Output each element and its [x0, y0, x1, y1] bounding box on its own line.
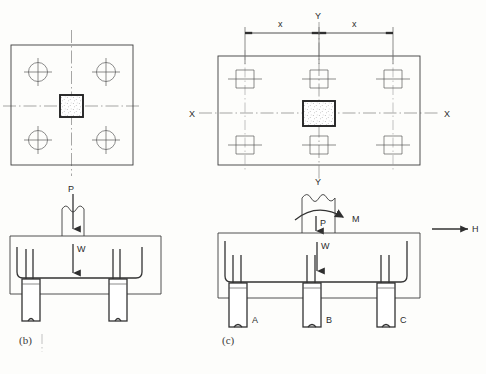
plan-c-axis-label-x-right: X — [444, 109, 450, 119]
caption-b: (b) — [19, 334, 32, 347]
pile-shaft — [109, 279, 127, 321]
elev-c-pile-C: C — [377, 255, 407, 327]
elev-c-pile-label-C: C — [400, 315, 407, 325]
figure-page: P W — [0, 0, 486, 374]
pile-shaft — [377, 283, 395, 327]
pile-shaft — [303, 283, 321, 327]
elev-c-moment-M-label: M — [352, 214, 360, 224]
elev-c-cap-reinforcement-u-bar — [225, 241, 407, 282]
plan-b-pile-top-right — [92, 58, 120, 86]
elev-c-pile-label-A: A — [252, 315, 258, 325]
elev-c-load-P-label: P — [320, 218, 326, 228]
elev-b-pile-left — [22, 249, 40, 321]
panel-c-plan: x x Y Y X X — [189, 11, 450, 187]
dim-label-x-right: x — [352, 19, 357, 29]
panel-b-elevation: P W — [10, 184, 161, 321]
dim-label-x-left: x — [278, 19, 283, 29]
plan-c-column-fill — [303, 101, 335, 126]
panel-c-elevation: M P H W A — [218, 195, 479, 328]
plan-b-pile-bottom-left — [24, 126, 52, 154]
plan-c-axis-label-y-top: Y — [315, 11, 321, 21]
engineering-figure: P W — [0, 0, 486, 374]
plan-c-axis-label-x-left: X — [189, 109, 195, 119]
caption-c: (c) — [222, 334, 235, 347]
elev-c-load-H-label: H — [472, 224, 479, 234]
plan-b-pile-top-left — [24, 58, 52, 86]
pile-shaft — [22, 279, 40, 321]
panel-b-plan — [3, 30, 142, 176]
elev-c-load-W-label: W — [321, 241, 330, 251]
plan-c-axis-label-y-bottom: Y — [315, 177, 321, 187]
plan-b-pile-bottom-right — [92, 126, 120, 154]
plan-b-column-fill — [60, 95, 83, 117]
elev-b-load-W-label: W — [77, 244, 86, 254]
elev-b-pile-right — [109, 249, 127, 321]
elev-b-load-P-label: P — [68, 184, 74, 194]
pile-shaft — [229, 283, 247, 327]
elev-c-column-break-symbol — [302, 195, 335, 202]
elev-c-pile-label-B: B — [326, 315, 332, 325]
elev-c-pile-A: A — [229, 255, 258, 327]
